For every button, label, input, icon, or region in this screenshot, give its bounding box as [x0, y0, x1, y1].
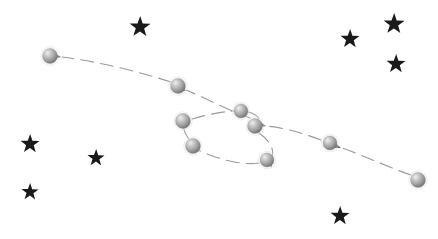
planet-marker — [245, 116, 264, 135]
planet-marker — [258, 151, 276, 169]
background-star-icon — [341, 29, 360, 47]
background-star-icon — [331, 206, 350, 224]
motion-path-segment — [62, 57, 171, 82]
motion-path-segment — [198, 150, 259, 164]
background-star-icon — [22, 183, 39, 199]
planet-marker — [232, 102, 250, 120]
planet-marker-group — [40, 46, 427, 189]
planet-marker — [183, 136, 202, 155]
planet-marker — [168, 76, 187, 95]
background-star-icon — [88, 149, 105, 165]
planet-marker — [40, 46, 59, 65]
diagram-canvas — [0, 0, 438, 239]
background-star-group — [21, 13, 406, 224]
planet-marker — [321, 134, 339, 152]
background-star-icon — [21, 134, 40, 152]
planet-marker — [173, 111, 192, 130]
background-star-icon — [130, 16, 151, 36]
planet-marker — [408, 170, 427, 189]
motion-path-segment — [266, 126, 321, 140]
background-star-icon — [387, 54, 406, 72]
motion-path-segment — [342, 148, 411, 175]
motion-path-segment — [192, 111, 234, 119]
retrograde-motion-diagram — [0, 0, 438, 239]
background-star-icon — [384, 13, 405, 33]
